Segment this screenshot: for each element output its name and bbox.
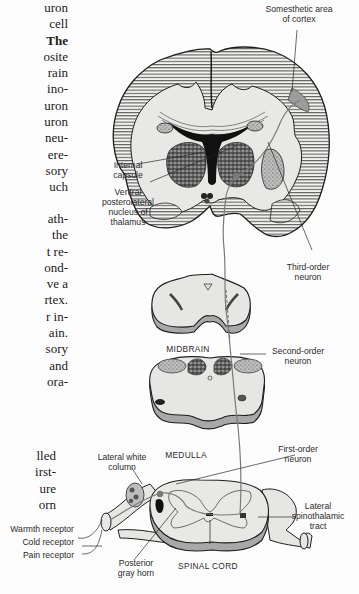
label-internal-capsule: Internal capsule [104, 160, 152, 180]
label-lateral-spinothalamic-tract: Lateral spinothalamic tract [284, 501, 352, 531]
label-vpl-nucleus: Ventral posterolateral nucleus of thalam… [96, 187, 160, 227]
label-posterior-gray-horn: Posterior gray horn [112, 558, 160, 578]
textbook-page: uron cell The osite rain ino- uron uron … [0, 0, 359, 594]
midbrain-section [152, 274, 250, 333]
thalamus-left [167, 143, 206, 188]
label-third-order-neuron: Third-order neuron [280, 262, 336, 282]
label-pain-receptor: Pain receptor [0, 550, 74, 560]
label-somesthetic-area: Somesthetic area of cortex [252, 4, 346, 24]
label-medulla: MEDULLA [156, 450, 216, 460]
label-second-order-neuron: Second-order neuron [266, 346, 330, 366]
label-spinal-cord: SPINAL CORD [172, 561, 244, 571]
label-first-order-neuron: First-order neuron [270, 444, 326, 464]
label-lateral-white-column: Lateral white column [90, 452, 154, 472]
thalamus-right [218, 143, 254, 187]
label-midbrain: MIDBRAIN [158, 344, 218, 354]
spinal-cord-section [101, 480, 312, 551]
medulla-section [150, 357, 265, 429]
label-warmth-receptor: Warmth receptor [0, 524, 74, 534]
label-cold-receptor: Cold receptor [0, 537, 74, 547]
